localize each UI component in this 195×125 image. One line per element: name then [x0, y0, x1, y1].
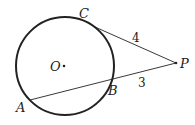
label-o: O	[50, 59, 61, 74]
label-p: P	[179, 56, 189, 71]
circle-tangent-secant-diagram: O C P B A 4 3	[0, 0, 195, 125]
label-c: C	[79, 6, 89, 21]
label-b: B	[107, 83, 118, 98]
label-a: A	[15, 100, 25, 115]
external-point-p	[175, 62, 178, 65]
length-label-pc: 4	[132, 31, 140, 45]
center-point-o	[63, 65, 66, 68]
length-label-pb: 3	[138, 76, 146, 90]
